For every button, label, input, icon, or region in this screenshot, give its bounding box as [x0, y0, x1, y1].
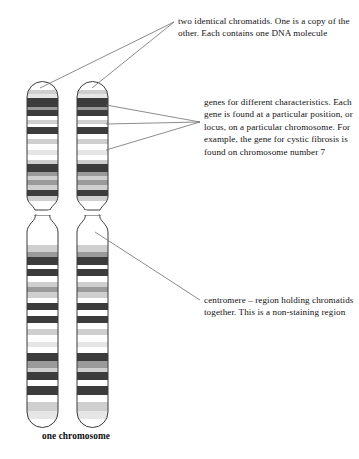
leader-chromatids-right	[92, 22, 174, 88]
chromosome-band	[27, 303, 58, 310]
leader-genes-top	[106, 105, 200, 122]
chromosome-band	[27, 380, 58, 386]
leader-chromatids-left	[40, 22, 174, 88]
leader-genes-mid	[106, 122, 200, 124]
chromosome-band	[27, 139, 58, 144]
chromosome-band	[27, 353, 58, 361]
chromosome-band	[27, 372, 58, 380]
chromosome-band	[27, 124, 58, 127]
chromosome-band	[77, 292, 108, 298]
chromosome-band	[77, 120, 108, 124]
chromosome-band	[77, 185, 108, 190]
chromosome-band	[27, 282, 58, 287]
chromosome-band	[27, 368, 58, 372]
chromosome-band	[77, 316, 108, 323]
chromosome-band	[27, 110, 58, 116]
chromosome-band	[27, 107, 58, 110]
chromosome-band	[27, 120, 58, 124]
genes-annotation: genes for different characteristics. Eac…	[204, 96, 356, 158]
chromosome-band	[27, 269, 58, 276]
chromosome-band	[77, 150, 108, 155]
chromosome-band	[27, 155, 58, 160]
chromosome-band	[27, 134, 58, 139]
chromosome-band	[27, 361, 58, 368]
chromosome-band	[77, 298, 108, 303]
chromosome-band	[77, 342, 108, 347]
chromosome-band	[27, 310, 58, 316]
chromosome-band	[77, 164, 108, 172]
chromosome-band	[77, 257, 108, 265]
left-chromatid-upper-bands	[27, 81, 58, 211]
chromosome-band	[27, 402, 58, 411]
chromosome-band	[77, 110, 108, 116]
chromosome-band	[27, 342, 58, 347]
chromosome-band	[77, 94, 108, 98]
chromosome-band	[27, 287, 58, 292]
chromosome-band	[77, 380, 108, 386]
chromosome-band	[77, 329, 108, 335]
chromosome-band	[77, 144, 108, 150]
leader-lines	[40, 22, 200, 300]
chromosome-band	[27, 98, 58, 107]
chromosome-band	[77, 282, 108, 287]
chromosome-band	[27, 180, 58, 185]
chromosome-band	[27, 298, 58, 303]
chromosome-band	[77, 323, 108, 329]
chromosome-band	[77, 395, 108, 402]
chromosome-band	[77, 124, 108, 127]
chromosome-band	[27, 257, 58, 265]
chromosome-band	[77, 172, 108, 176]
chromosome-band	[77, 386, 108, 395]
centromere-region	[35, 210, 100, 215]
centromere-annotation: centromere – region holding chromatids t…	[204, 294, 354, 319]
chromosome-diagram-svg	[0, 0, 359, 459]
chromosome-band	[27, 150, 58, 155]
chromosome-band	[77, 139, 108, 144]
chromosome-band	[77, 90, 108, 94]
chromosome-band	[27, 335, 58, 342]
chromosome-band	[77, 190, 108, 196]
chromosome-band	[27, 160, 58, 164]
chromosome-band	[77, 176, 108, 180]
chromosome-band	[77, 372, 108, 380]
chromosome-band	[27, 144, 58, 150]
chromosome-band	[77, 335, 108, 342]
chromosome-band	[77, 411, 108, 419]
chromosome-body	[27, 81, 108, 430]
leader-genes-bottom	[106, 122, 200, 150]
chromosome-band	[77, 107, 108, 110]
chromosome-band	[27, 116, 58, 120]
chromosome-band	[77, 180, 108, 185]
chromosome-band	[77, 361, 108, 368]
chromatids-annotation: two identical chromatids. One is a copy …	[178, 15, 356, 40]
chromosome-band	[77, 196, 108, 201]
chromosome-band	[77, 160, 108, 164]
chromosome-band	[27, 196, 58, 201]
chromosome-band	[27, 172, 58, 176]
chromosome-band	[77, 116, 108, 120]
chromosome-band	[77, 402, 108, 411]
chromosome-band	[77, 127, 108, 134]
chromosome-band	[27, 252, 58, 257]
chromosome-band	[27, 176, 58, 180]
chromosome-band	[77, 353, 108, 361]
chromosome-band	[77, 155, 108, 160]
chromosome-band	[27, 395, 58, 402]
chromosome-band	[77, 276, 108, 282]
chromosome-band	[27, 386, 58, 395]
chromosome-band	[27, 245, 58, 252]
chromosome-band	[77, 269, 108, 276]
chromosome-band	[77, 134, 108, 139]
chromosome-band	[27, 323, 58, 329]
chromosome-band	[77, 347, 108, 353]
chromosome-band	[27, 90, 58, 94]
chromosome-band	[27, 190, 58, 196]
chromosome-band	[27, 94, 58, 98]
chromosome-band	[27, 185, 58, 190]
chromosome-band	[27, 164, 58, 172]
chromosome-band	[27, 292, 58, 298]
right-chromatid-upper-bands	[77, 81, 108, 211]
chromosome-diagram-page: two identical chromatids. One is a copy …	[0, 0, 359, 459]
leader-centromere	[95, 232, 200, 300]
chromosome-band	[77, 265, 108, 269]
